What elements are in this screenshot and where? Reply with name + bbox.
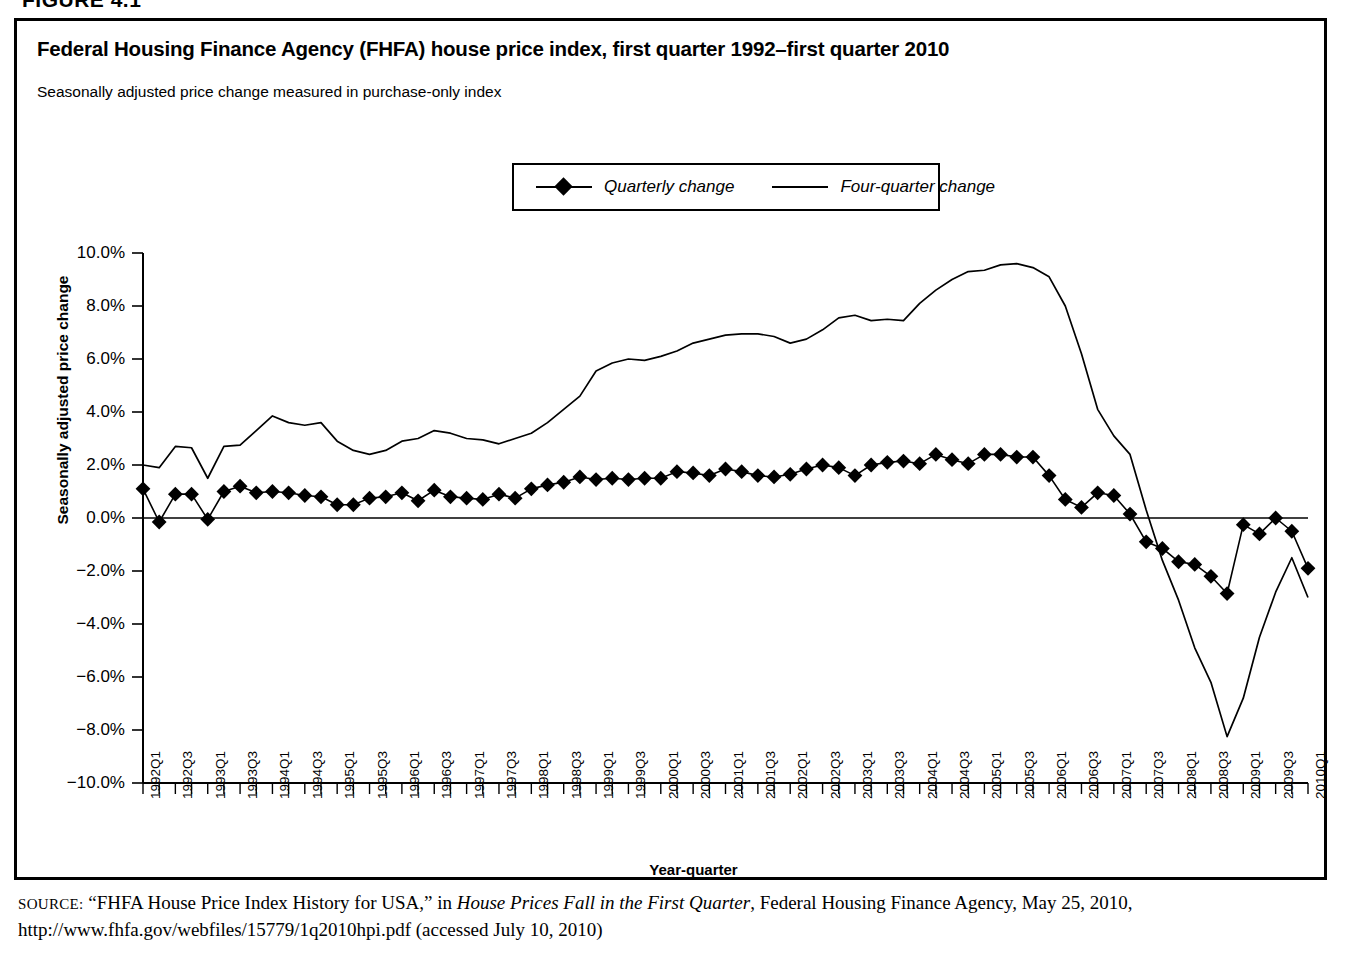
- chart-canvas: [17, 21, 1330, 883]
- x-axis-title: Year-quarter: [17, 861, 1330, 878]
- source-note: SOURCE: “FHFA House Price Index History …: [18, 890, 1333, 944]
- figure-frame: Federal Housing Finance Agency (FHFA) ho…: [14, 18, 1327, 880]
- source-text-part1: “FHFA House Price Index History for USA,…: [83, 892, 456, 913]
- source-prefix: SOURCE:: [18, 896, 83, 912]
- source-publication-title: House Prices Fall in the First Quarter: [457, 892, 750, 913]
- plot-area: Seasonally adjusted price change 10.0%8.…: [17, 21, 1330, 883]
- figure-number-header: FIGURE 4.1: [22, 0, 141, 10]
